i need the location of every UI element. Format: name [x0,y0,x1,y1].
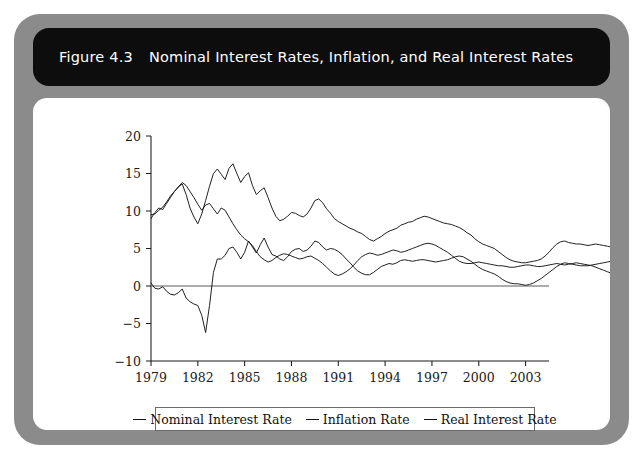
figure-number: Figure 4.3 [59,49,133,65]
legend-line-swatch-icon [306,419,319,420]
y-tick-label: 5 [133,241,141,256]
y-tick-label: −5 [123,316,141,331]
x-tick-label: 1991 [322,370,354,385]
x-tick-label: 2003 [510,370,542,385]
y-tick-label: −10 [115,354,141,369]
figure-title-bar: Figure 4.3Nominal Interest Rates, Inflat… [33,28,610,86]
legend-item-2: Real Interest Rate [424,412,557,427]
y-tick-label: 10 [125,204,141,219]
legend-line-swatch-icon [133,419,146,420]
legend-line-swatch-icon [424,419,437,420]
y-tick-label: 15 [125,166,141,181]
axis-tick-marks [146,136,526,366]
legend-label: Real Interest Rate [441,412,557,427]
chart-legend: Nominal Interest RateInflation RateReal … [155,407,535,431]
figure-card: Figure 4.3Nominal Interest Rates, Inflat… [14,14,629,445]
x-tick-label: 1997 [416,370,448,385]
series-line-2 [151,238,610,333]
x-tick-label: 1985 [229,370,261,385]
data-series-group [151,164,610,333]
series-line-0 [151,164,610,279]
x-axis-tick-labels: 197919821985198819911994199720002003 [135,370,541,385]
x-tick-label: 1994 [369,370,401,385]
x-tick-label: 1982 [182,370,214,385]
series-line-1 [151,183,610,277]
y-axis-tick-labels: −10−505101520 [115,129,141,369]
legend-label: Nominal Interest Rate [150,412,292,427]
legend-label: Inflation Rate [323,412,410,427]
x-tick-label: 1979 [135,370,167,385]
figure-title-text: Nominal Interest Rates, Inflation, and R… [149,49,573,65]
x-tick-label: 2000 [463,370,495,385]
chart-panel: −10−505101520 19791982198519881991199419… [33,98,610,430]
figure-title: Figure 4.3Nominal Interest Rates, Inflat… [33,49,573,65]
legend-item-1: Inflation Rate [306,412,410,427]
legend-item-0: Nominal Interest Rate [133,412,292,427]
y-tick-label: 0 [133,279,141,294]
y-tick-label: 20 [125,129,141,144]
x-tick-label: 1988 [276,370,308,385]
line-chart: −10−505101520 19791982198519881991199419… [33,98,610,430]
